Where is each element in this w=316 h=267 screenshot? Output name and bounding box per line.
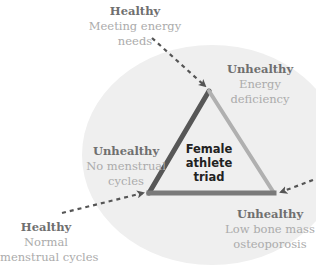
desc-line-2: cycles [86,174,166,189]
state-text: Unhealthy [210,62,310,77]
desc-line-2: needs [85,34,185,49]
state-text: Unhealthy [216,207,316,222]
center-line-2: athlete [176,156,242,170]
desc-line-2: deficiency [210,92,310,107]
label-low-bone-mass: Unhealthy Low bone mass osteoporosis [216,207,316,252]
desc-line-1: Normal [0,235,92,250]
female-athlete-triad-diagram: Female athlete triad Unhealthy Energy de… [0,0,316,267]
label-no-menstrual-cycles: Unhealthy No menstrual cycles [86,144,166,189]
triad-center-label: Female athlete triad [176,142,242,184]
desc-line-1: Energy [210,77,310,92]
state-text: Healthy [0,220,92,235]
desc-line-2: osteoporosis [216,237,316,252]
desc-line-2: menstrual cycles [0,250,92,265]
center-line-1: Female [176,142,242,156]
center-line-3: triad [176,170,242,184]
label-energy-deficiency: Unhealthy Energy deficiency [210,62,310,107]
state-text: Healthy [85,4,185,19]
desc-line-1: No menstrual [86,159,166,174]
label-normal-menstrual-cycles: Healthy Normal menstrual cycles [0,220,92,265]
desc-line-1: Low bone mass [216,222,316,237]
desc-line-1: Meeting energy [85,19,185,34]
state-text: Unhealthy [86,144,166,159]
label-meeting-energy-needs: Healthy Meeting energy needs [85,4,185,49]
